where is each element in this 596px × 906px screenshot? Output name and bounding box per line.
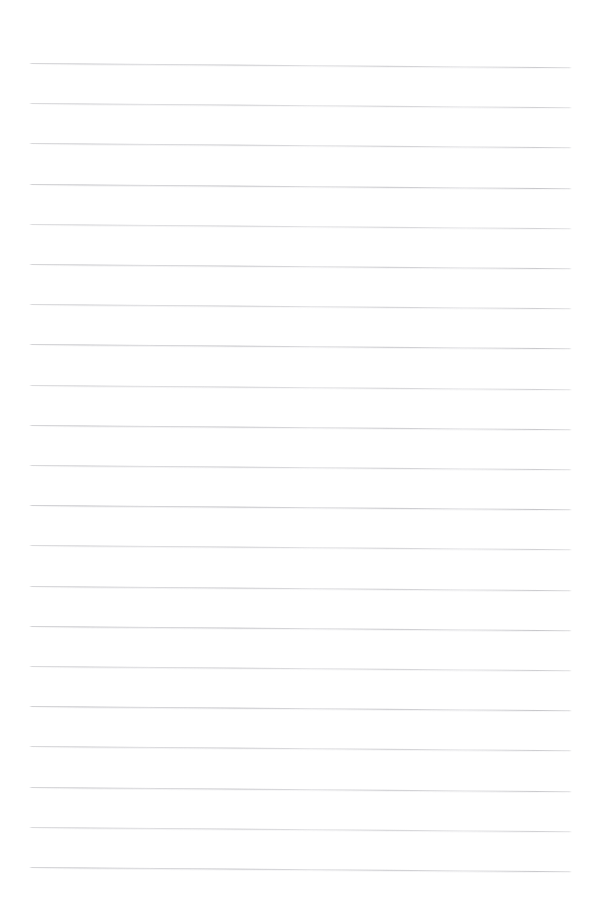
ruled-line [29,385,572,390]
ruled-line [29,827,572,832]
ruled-line [29,465,572,470]
ruled-line [29,706,572,711]
ruled-line [29,103,572,108]
ruled-line [29,867,572,872]
ruled-line [29,425,572,430]
ruled-line [29,224,572,229]
ruled-line [29,63,572,68]
ruled-line [29,143,572,148]
ruled-line [29,666,572,671]
ruled-line [29,344,572,349]
lined-paper-page [0,0,596,906]
ruled-line [29,545,572,550]
ruled-line [29,505,572,510]
ruled-line [29,184,572,189]
ruled-line [29,264,572,269]
ruled-line [29,787,572,792]
ruled-line [29,626,572,631]
ruled-line [29,746,572,751]
ruled-line [29,304,572,309]
ruled-line [29,586,572,591]
ruled-writing-area[interactable] [0,0,596,906]
